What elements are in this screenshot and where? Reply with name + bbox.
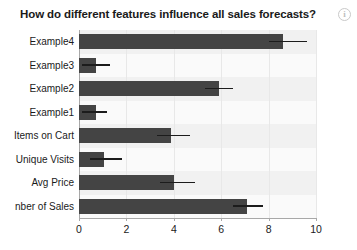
- y-axis-label: Example2: [0, 77, 74, 101]
- info-icon[interactable]: i: [338, 8, 351, 21]
- y-axis-label: Example4: [0, 30, 74, 54]
- chart-row: Example1: [0, 101, 357, 125]
- bar[interactable]: [79, 81, 219, 96]
- error-bar: [205, 88, 233, 90]
- chart-row: Avg Price: [0, 171, 357, 195]
- y-axis-label: Example3: [0, 54, 74, 78]
- y-axis-label: Unique Visits: [0, 148, 74, 172]
- x-tick-mark: [126, 218, 127, 221]
- error-bar: [82, 111, 107, 113]
- x-tick-label: 10: [310, 223, 322, 235]
- x-tick-label: 0: [76, 223, 82, 235]
- y-axis-label: Items on Cart: [0, 124, 74, 148]
- chart-row: Example3: [0, 54, 357, 78]
- x-tick-label: 4: [171, 223, 177, 235]
- error-bar: [269, 41, 307, 43]
- feature-influence-chart-card: How do different features influence all …: [0, 0, 357, 250]
- chart-row: nber of Sales: [0, 195, 357, 219]
- chart-row: Example2: [0, 77, 357, 101]
- x-tick-mark: [174, 218, 175, 221]
- error-bar: [233, 205, 262, 207]
- x-tick-mark: [79, 218, 80, 221]
- bar[interactable]: [79, 34, 283, 49]
- y-axis-label: nber of Sales: [0, 195, 74, 219]
- info-icon-glyph: i: [343, 10, 346, 19]
- bar[interactable]: [79, 199, 247, 214]
- plot-wrapper: Example4Example3Example2Example1Items on…: [0, 28, 357, 250]
- x-tick-label: 6: [218, 223, 224, 235]
- x-tick-mark: [316, 218, 317, 221]
- chart-row: Unique Visits: [0, 148, 357, 172]
- error-bar: [90, 158, 122, 160]
- chart-row: Items on Cart: [0, 124, 357, 148]
- x-tick-mark: [269, 218, 270, 221]
- y-axis-label: Avg Price: [0, 171, 74, 195]
- x-tick-label: 2: [123, 223, 129, 235]
- chart-header: How do different features influence all …: [0, 0, 357, 28]
- x-axis-line: [79, 218, 316, 219]
- x-tick-mark: [221, 218, 222, 221]
- error-bar: [82, 64, 110, 66]
- error-bar: [157, 135, 190, 137]
- chart-row: Example4: [0, 30, 357, 54]
- y-axis-label: Example1: [0, 101, 74, 125]
- page-title: How do different features influence all …: [20, 8, 316, 20]
- x-tick-label: 8: [266, 223, 272, 235]
- error-bar: [160, 182, 195, 184]
